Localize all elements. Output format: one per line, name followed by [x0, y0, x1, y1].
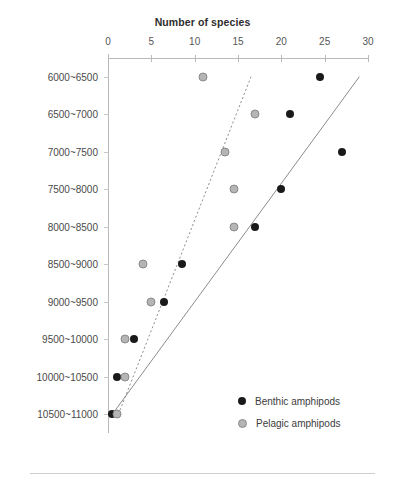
data-point-pelagic	[199, 72, 208, 81]
trendlines	[108, 58, 368, 433]
data-point-pelagic	[112, 410, 121, 419]
data-point-benthic	[277, 185, 285, 193]
y-axis-category-label: 6500~7000	[48, 109, 98, 120]
plot-area: 051015202530	[108, 58, 368, 433]
data-point-pelagic	[121, 335, 130, 344]
x-axis-tick-label: 10	[189, 36, 200, 47]
legend-label-pelagic: Pelagic amphipods	[256, 418, 341, 429]
x-axis-tick-label: 5	[149, 36, 155, 47]
legend-label-benthic: Benthic amphipods	[255, 396, 340, 407]
x-axis-tick-label: 30	[362, 36, 373, 47]
data-point-pelagic	[251, 110, 260, 119]
x-axis-tick-label: 25	[319, 36, 330, 47]
y-axis-category-label: 7500~8000	[48, 184, 98, 195]
legend-item-pelagic: Pelagic amphipods	[238, 412, 341, 434]
data-point-benthic	[251, 223, 259, 231]
legend-marker-open-circle-icon	[238, 419, 247, 428]
y-axis-category-label: 7000~7500	[48, 146, 98, 157]
chart-figure: Number of species 6000~65006500~70007000…	[0, 0, 405, 487]
x-axis-tick	[368, 55, 369, 62]
data-point-pelagic	[138, 260, 147, 269]
x-axis-tick-label: 20	[276, 36, 287, 47]
chart-axis-title-x: Number of species	[0, 16, 405, 28]
trendline-pelagic	[118, 77, 251, 415]
data-point-benthic	[286, 110, 294, 118]
legend-item-benthic: Benthic amphipods	[238, 390, 341, 412]
x-axis-tick-label: 15	[232, 36, 243, 47]
y-axis-category-label: 6000~6500	[48, 71, 98, 82]
y-axis-category-label: 9500~10000	[42, 334, 98, 345]
y-axis-category-label: 8500~9000	[48, 259, 98, 270]
data-point-benthic	[316, 73, 324, 81]
data-point-pelagic	[147, 297, 156, 306]
chart-legend: Benthic amphipods Pelagic amphipods	[238, 390, 341, 434]
y-axis-category-label: 9000~9500	[48, 296, 98, 307]
x-axis-tick-label: 0	[105, 36, 111, 47]
y-axis-category-label: 10500~11000	[37, 409, 98, 420]
data-point-benthic	[338, 148, 346, 156]
data-point-benthic	[178, 260, 186, 268]
footer-divider	[30, 473, 375, 474]
y-axis-category-label: 8000~8500	[48, 221, 98, 232]
trendline-benthic	[112, 77, 359, 415]
data-point-benthic	[113, 373, 121, 381]
data-point-pelagic	[221, 147, 230, 156]
data-point-benthic	[130, 335, 138, 343]
y-axis-category-label: 10000~10500	[37, 371, 98, 382]
data-point-pelagic	[121, 372, 130, 381]
y-axis-category-labels: 6000~65006500~70007000~75007500~80008000…	[0, 58, 104, 433]
data-point-benthic	[160, 298, 168, 306]
legend-marker-filled-circle-icon	[238, 397, 246, 405]
data-point-pelagic	[229, 185, 238, 194]
data-point-pelagic	[229, 222, 238, 231]
